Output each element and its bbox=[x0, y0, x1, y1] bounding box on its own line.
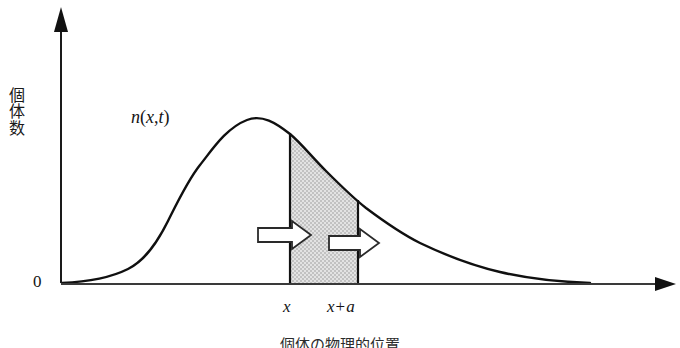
x-tick-label: x bbox=[283, 297, 291, 317]
x-axis-arrowhead bbox=[655, 277, 676, 291]
curve-label: n(x,t) bbox=[131, 107, 170, 128]
curve-label-close-paren: ) bbox=[164, 107, 170, 127]
curve-label-x: x bbox=[146, 107, 154, 127]
y-axis-arrowhead bbox=[54, 7, 68, 32]
x-plus-a-tick-label: x+a bbox=[327, 297, 355, 317]
curve-label-n: n bbox=[131, 107, 140, 127]
y-axis-label-char-3: 数 bbox=[2, 121, 32, 137]
x-tick-variable: x bbox=[283, 297, 291, 316]
origin-label: 0 bbox=[33, 272, 42, 292]
shaded-interval-region bbox=[290, 134, 358, 283]
x-axis-caption: 個体の物理的位置 bbox=[0, 333, 680, 348]
diffusion-figure: 個 体 数 0 x x+a n(x,t) 個体の物理的位置 bbox=[0, 0, 680, 348]
x-plus-a-operator: + bbox=[335, 297, 347, 316]
y-axis-label: 個 体 数 bbox=[2, 88, 32, 137]
x-plus-a-variable: x bbox=[327, 297, 335, 316]
x-plus-a-variable-2: a bbox=[346, 297, 355, 316]
plot-canvas bbox=[0, 0, 680, 348]
